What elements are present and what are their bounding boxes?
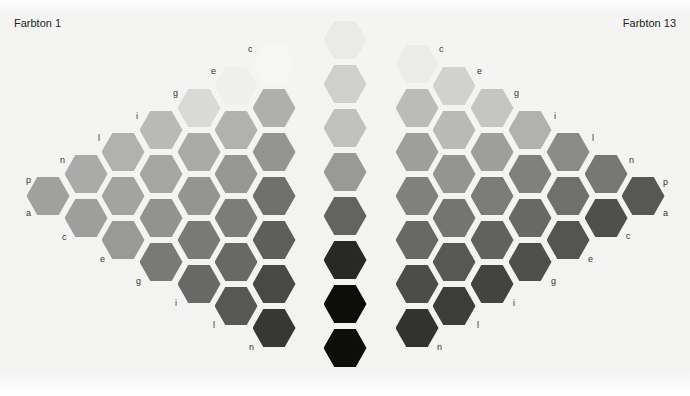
hex-swatch <box>509 111 552 149</box>
hex-swatch <box>433 155 476 193</box>
hex-swatch <box>509 243 552 281</box>
diagonal-label-g: g <box>173 88 178 98</box>
hex-swatch <box>396 89 439 127</box>
hex-swatch <box>396 177 439 215</box>
hex-swatch <box>324 153 367 191</box>
diagonal-label-g: g <box>551 276 556 286</box>
hex-swatch <box>324 241 367 279</box>
diagonal-label-e: e <box>100 254 105 264</box>
hex-swatch <box>324 329 367 367</box>
hex-swatch <box>471 265 514 303</box>
diagonal-label-c: c <box>248 44 253 54</box>
hex-swatch <box>471 177 514 215</box>
diagonal-label-e: e <box>477 66 482 76</box>
hex-swatch <box>324 21 367 59</box>
hex-swatch <box>433 243 476 281</box>
hex-swatch <box>215 155 258 193</box>
hex-swatch <box>324 65 367 103</box>
hex-swatch <box>471 89 514 127</box>
hex-swatch <box>471 133 514 171</box>
diagonal-label-e: e <box>211 66 216 76</box>
diagonal-label-i: i <box>513 298 515 308</box>
color-chart: Farbton 1 Farbton 13 cegilnpacegiln cegi… <box>0 0 690 396</box>
hex-swatch <box>396 221 439 259</box>
hex-swatch <box>585 155 628 193</box>
hex-swatch <box>65 155 108 193</box>
hex-swatch <box>433 111 476 149</box>
diagonal-label-g: g <box>514 88 519 98</box>
diagonal-label-l: l <box>477 320 479 330</box>
hex-swatch <box>140 199 183 237</box>
diagonal-label-l: l <box>98 133 100 143</box>
hex-swatch <box>324 109 367 147</box>
hex-swatch <box>324 197 367 235</box>
hex-swatch <box>215 67 258 105</box>
diagonal-label-c: c <box>62 232 67 242</box>
diagonal-label-i: i <box>175 298 177 308</box>
hex-swatch <box>102 177 145 215</box>
hex-swatch <box>178 177 221 215</box>
hex-swatch <box>215 199 258 237</box>
hex-swatch <box>27 177 70 215</box>
hex-swatch <box>324 285 367 323</box>
hex-swatch <box>253 221 296 259</box>
diagonal-label-n: n <box>437 342 442 352</box>
hex-swatch <box>433 287 476 325</box>
title-farbton-1: Farbton 1 <box>14 17 61 29</box>
hex-swatch <box>253 133 296 171</box>
hex-swatch <box>396 265 439 303</box>
hex-swatch <box>253 45 296 83</box>
diagonal-label-e: e <box>588 254 593 264</box>
diagonal-label-c: c <box>626 231 631 241</box>
hex-swatch <box>253 177 296 215</box>
hex-swatch <box>140 111 183 149</box>
hex-swatch <box>102 133 145 171</box>
hex-swatch <box>396 45 439 83</box>
diagonal-label-n: n <box>249 342 254 352</box>
hex-swatch <box>433 67 476 105</box>
hex-swatch <box>471 221 514 259</box>
diagonal-label-i: i <box>136 111 138 121</box>
hex-swatch <box>140 155 183 193</box>
hex-swatch <box>178 221 221 259</box>
hex-swatch <box>253 89 296 127</box>
hex-swatch <box>396 133 439 171</box>
hex-swatch <box>253 265 296 303</box>
hex-swatch <box>178 265 221 303</box>
hex-swatch <box>433 199 476 237</box>
hex-swatch <box>253 309 296 347</box>
hex-swatch <box>585 199 628 237</box>
diagonal-label-g: g <box>136 276 141 286</box>
diagonal-label-a: a <box>26 208 31 218</box>
diagonal-label-p: p <box>26 175 31 185</box>
diagonal-label-a: a <box>663 208 668 218</box>
diagonal-label-n: n <box>629 155 634 165</box>
hex-swatch <box>65 199 108 237</box>
hex-swatch <box>102 221 145 259</box>
hex-swatch <box>547 133 590 171</box>
hex-swatch <box>215 287 258 325</box>
hex-swatch <box>215 111 258 149</box>
hex-swatch <box>509 199 552 237</box>
hex-swatch <box>178 133 221 171</box>
diagonal-label-n: n <box>60 155 65 165</box>
hex-swatch <box>509 155 552 193</box>
hex-swatch <box>215 243 258 281</box>
hex-swatch <box>547 221 590 259</box>
diagonal-label-i: i <box>554 111 556 121</box>
hex-swatch <box>396 309 439 347</box>
title-farbton-13: Farbton 13 <box>623 17 676 29</box>
hex-swatch <box>622 177 665 215</box>
diagonal-label-p: p <box>663 177 668 187</box>
diagonal-label-l: l <box>592 133 594 143</box>
hex-swatch <box>178 89 221 127</box>
diagonal-label-c: c <box>439 44 444 54</box>
hex-swatch <box>140 243 183 281</box>
hex-swatch <box>547 177 590 215</box>
diagonal-label-l: l <box>213 320 215 330</box>
